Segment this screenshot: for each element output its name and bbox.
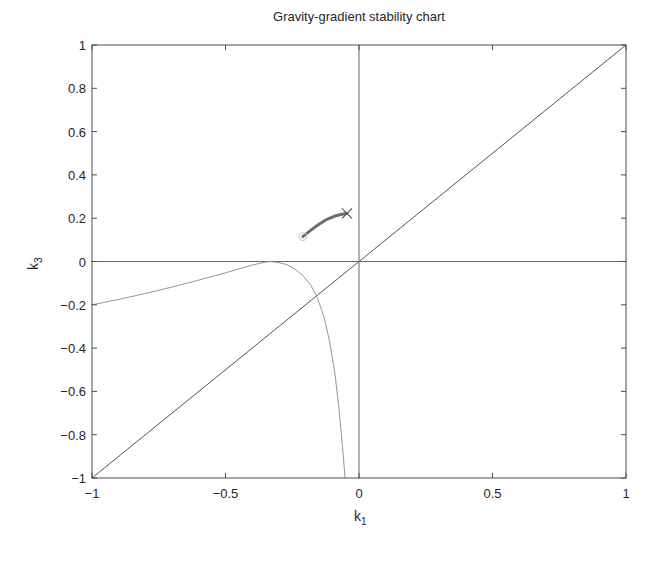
chart-title: Gravity-gradient stability chart (273, 9, 445, 24)
x-axis-label: k1 (354, 508, 367, 527)
y-axis-label: k3 (25, 257, 44, 270)
x-tick-label: 0.5 (483, 486, 501, 501)
x-tick-label: −1 (85, 486, 100, 501)
x-tick-label: 1 (622, 486, 629, 501)
svg-text:k1: k1 (354, 508, 367, 527)
series-stability-boundary-right-branch- (270, 262, 345, 479)
y-tick-label: 0 (79, 255, 86, 270)
x-tick-label: −0.5 (213, 486, 239, 501)
y-tick-label: −1 (71, 471, 86, 486)
y-tick-label: −0.4 (60, 341, 86, 356)
stability-chart: Gravity-gradient stability chart −1−0.50… (0, 0, 655, 561)
x-axis-ticks: −1−0.500.51 (85, 45, 630, 501)
plot-area (92, 45, 626, 478)
y-tick-label: 0.4 (68, 168, 86, 183)
y-tick-label: 0.2 (68, 211, 86, 226)
y-tick-label: −0.8 (60, 428, 86, 443)
series-stability-boundary-left-branch- (92, 262, 270, 305)
y-tick-label: −0.6 (60, 384, 86, 399)
svg-text:k3: k3 (25, 257, 44, 270)
y-tick-label: 1 (79, 38, 86, 53)
y-tick-label: 0.6 (68, 125, 86, 140)
y-tick-label: 0.8 (68, 81, 86, 96)
y-tick-label: −0.2 (60, 298, 86, 313)
x-tick-label: 0 (355, 486, 362, 501)
series-trajectory (303, 213, 347, 236)
